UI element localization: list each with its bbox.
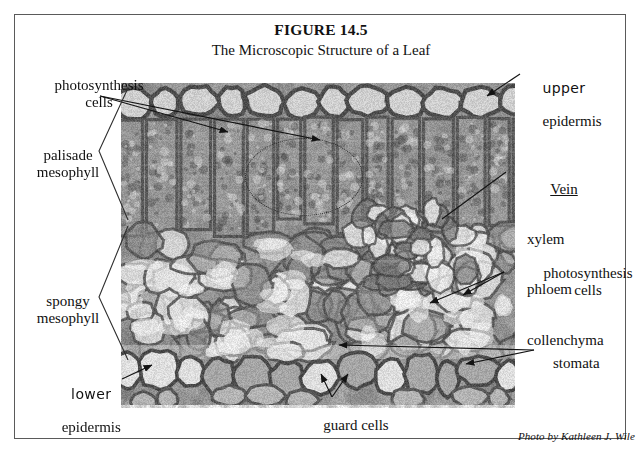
leaf-cross-section-micrograph [121, 83, 515, 408]
label-vein-heading: Vein [527, 181, 601, 198]
label-vein-xylem: xylem [527, 231, 643, 248]
label-upper-epidermis-serif: epidermis [543, 113, 602, 129]
figure-frame: FIGURE 14.5 The Microscopic Structure of… [14, 14, 626, 439]
label-upper-epidermis-hand: upper [543, 80, 586, 96]
label-vein-collenchyma: collenchyma [527, 332, 643, 349]
photo-credit: Photo by Kathleen J. Wile [455, 430, 635, 442]
label-lower-epidermis-hand: lower [71, 386, 111, 402]
label-guard-cells: guard cells [291, 417, 421, 434]
label-palisade-mesophyll: palisade mesophyll [23, 147, 113, 181]
label-photosynthesis-cells-left: photosynthesis cells [25, 77, 173, 111]
label-spongy-mesophyll: spongy mesophyll [23, 293, 113, 327]
label-upper-epidermis: upper epidermis [520, 63, 643, 147]
figure-root: FIGURE 14.5 The Microscopic Structure of… [0, 0, 643, 462]
figure-number-label: FIGURE 14.5 [15, 21, 627, 39]
label-lower-epidermis-serif: epidermis [62, 419, 121, 435]
figure-title: The Microscopic Structure of a Leaf [15, 42, 627, 59]
label-stomata: stomata [553, 355, 643, 372]
label-lower-epidermis: lower epidermis [29, 369, 131, 453]
micrograph-canvas [121, 83, 515, 408]
label-photosynthesis-cells-right: photosynthesis cells [523, 265, 643, 299]
